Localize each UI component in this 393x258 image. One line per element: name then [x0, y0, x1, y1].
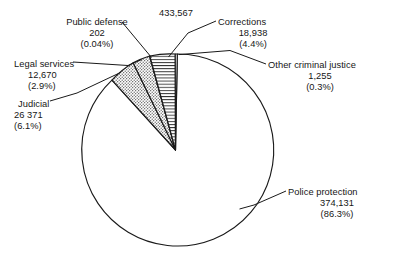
- judicial-name: Judicial: [6, 99, 90, 110]
- legal-services-name: Legal services: [6, 59, 110, 70]
- public-defense-percent: (0.04%): [38, 39, 160, 50]
- other-criminal-justice-percent: (0.3%): [268, 82, 390, 93]
- police-protection-percent: (86.3%): [288, 209, 392, 220]
- corrections-name: Corrections: [218, 17, 310, 28]
- public-defense-value: 202: [38, 28, 160, 39]
- pie-slices: [82, 54, 274, 246]
- legal-services-value: 12,670: [6, 70, 110, 81]
- leader-line-corrections: [169, 21, 217, 57]
- slice-label-police-protection: Police protection 374,131 (86.3%): [288, 187, 392, 221]
- judicial-value: 26 371: [6, 110, 90, 121]
- public-defense-name: Public defense: [38, 17, 160, 28]
- slice-label-corrections: Corrections 18,938 (4.4%): [218, 17, 310, 51]
- corrections-percent: (4.4%): [218, 39, 310, 50]
- slice-label-judicial: Judicial 26 371 (6.1%): [6, 99, 90, 133]
- judicial-percent: (6.1%): [6, 121, 90, 132]
- police-protection-value: 374,131: [288, 198, 392, 209]
- slice-label-legal-services: Legal services 12,670 (2.9%): [6, 59, 110, 93]
- legal-services-percent: (2.9%): [6, 81, 110, 92]
- police-protection-name: Police protection: [288, 187, 392, 198]
- slice-label-public-defense: Public defense 202 (0.04%): [38, 17, 160, 51]
- other-criminal-justice-name: Other criminal justice: [268, 60, 390, 71]
- slice-police-protection[interactable]: [82, 54, 274, 246]
- corrections-value: 18,938: [218, 28, 310, 39]
- other-criminal-justice-value: 1,255: [268, 71, 390, 82]
- pie-chart-figure: 433,567 Public defense 202 (0.04%) Corre…: [0, 0, 393, 258]
- slice-label-other-criminal-justice: Other criminal justice 1,255 (0.3%): [268, 60, 390, 94]
